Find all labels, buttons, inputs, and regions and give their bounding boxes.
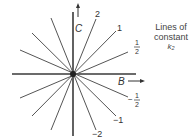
vertical-axis-label: C — [75, 23, 83, 34]
label-slope-neg-half-sign: − — [128, 95, 133, 104]
label-slope-half-num: 1 — [135, 39, 139, 46]
caption-line-2: constant — [150, 32, 192, 42]
label-slope-neg-1: −1 — [113, 115, 123, 125]
diagram-caption: Lines of constant k₂ — [150, 22, 192, 52]
origin-point — [70, 71, 76, 77]
label-slope-half-den: 2 — [135, 48, 139, 55]
horizontal-axis-label: B — [118, 76, 125, 87]
b-arrowhead-icon — [140, 79, 145, 83]
caption-line-3: k₂ — [150, 42, 192, 52]
caption-line-1: Lines of — [150, 22, 192, 32]
constant-k-lines-diagram: C B 2 1 1 2 − 1 2 −1 −2 — [0, 0, 193, 139]
label-slope-1: 1 — [117, 23, 122, 33]
label-slope-neg-half-den: 2 — [135, 101, 139, 108]
c-arrowhead-icon — [76, 3, 80, 8]
label-slope-neg-2: −2 — [92, 129, 102, 139]
label-slope-2: 2 — [95, 9, 100, 19]
label-slope-neg-half-num: 1 — [135, 92, 139, 99]
